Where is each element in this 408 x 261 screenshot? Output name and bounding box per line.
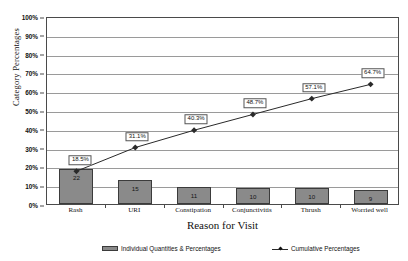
y-tick-label: 100% bbox=[22, 14, 38, 21]
legend-item-cumulative: Cumulative Percentages bbox=[272, 245, 360, 252]
chart-legend: Individual Quantities & Percentages Cumu… bbox=[46, 245, 399, 257]
x-axis-title: Reason for Visit bbox=[46, 219, 399, 231]
x-tick-label: Conjunctivitis bbox=[232, 206, 272, 214]
cumulative-line bbox=[76, 84, 370, 171]
y-axis-tick-labels: 0%10%20%30%40%50%60%70%80%90%100% bbox=[0, 17, 44, 205]
x-tick-label: Constipation bbox=[175, 206, 211, 214]
cumulative-line-series bbox=[47, 18, 400, 206]
line-data-marker bbox=[250, 111, 256, 117]
y-tick-label: 40% bbox=[25, 126, 38, 133]
x-tick-label: Rash bbox=[68, 206, 82, 214]
line-marker-icon bbox=[272, 246, 288, 252]
legend-label: Cumulative Percentages bbox=[291, 245, 360, 252]
pareto-chart: Category Percentages 0%10%20%30%40%50%60… bbox=[0, 0, 408, 261]
line-data-marker bbox=[309, 96, 315, 102]
y-tick-label: 80% bbox=[25, 51, 38, 58]
cumulative-value-label: 18.5% bbox=[69, 155, 92, 165]
line-data-marker bbox=[368, 81, 374, 87]
bar-swatch-icon bbox=[102, 246, 118, 251]
y-tick-label: 10% bbox=[25, 183, 38, 190]
y-tick-label: 50% bbox=[25, 108, 38, 115]
line-data-marker bbox=[132, 145, 138, 151]
y-tick-label: 60% bbox=[25, 89, 38, 96]
y-tick-label: 70% bbox=[25, 70, 38, 77]
legend-item-individual: Individual Quantities & Percentages bbox=[102, 245, 221, 252]
x-tick-label: URI bbox=[128, 206, 140, 214]
y-tick-label: 20% bbox=[25, 164, 38, 171]
x-axis-tick-labels: RashURIConstipationConjunctivitisThrushW… bbox=[46, 205, 399, 219]
legend-label: Individual Quantities & Percentages bbox=[121, 245, 221, 252]
cumulative-value-label: 64.7% bbox=[361, 69, 384, 79]
plot-area: 22151110109 18.5%31.1%40.3%48.7%57.1%64.… bbox=[46, 17, 399, 205]
cumulative-value-label: 40.3% bbox=[185, 114, 208, 124]
cumulative-value-label: 48.7% bbox=[243, 99, 266, 109]
cumulative-value-label: 57.1% bbox=[302, 83, 325, 93]
x-tick-label: Worried well bbox=[351, 206, 388, 214]
x-tick-label: Thrush bbox=[301, 206, 321, 214]
y-tick-label: 0% bbox=[29, 202, 38, 209]
cumulative-value-label: 31.1% bbox=[126, 132, 149, 142]
line-data-marker bbox=[191, 127, 197, 133]
y-tick-label: 90% bbox=[25, 32, 38, 39]
y-tick-label: 30% bbox=[25, 145, 38, 152]
line-data-marker bbox=[73, 168, 79, 174]
